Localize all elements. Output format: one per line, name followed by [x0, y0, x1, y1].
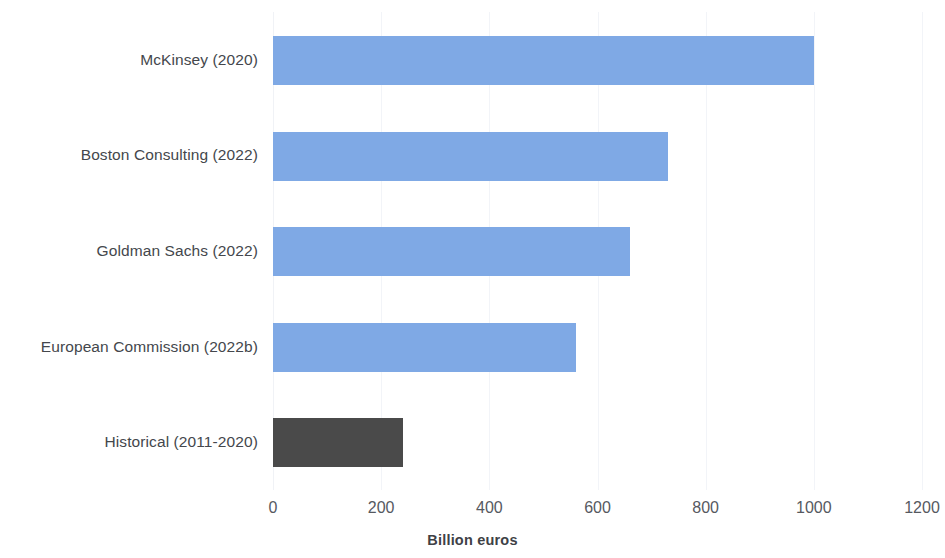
x-tick-label: 800 [692, 497, 719, 519]
bar[interactable] [273, 418, 403, 467]
x-tick-label: 0 [269, 497, 278, 519]
x-tick-label: 200 [368, 497, 395, 519]
x-axis-title: Billion euros [0, 532, 945, 548]
bar-row [273, 108, 922, 204]
gridline-1200 [922, 12, 923, 490]
x-tick-label: 600 [584, 497, 611, 519]
x-tick-label: 400 [476, 497, 503, 519]
category-label: Historical (2011-2020) [0, 433, 258, 451]
bar[interactable] [273, 132, 668, 181]
x-tick-label: 1200 [904, 497, 940, 519]
bar-row [273, 394, 922, 490]
bar[interactable] [273, 227, 630, 276]
bar-row [273, 12, 922, 108]
bars-layer [273, 12, 922, 490]
category-label: European Commission (2022b) [0, 338, 258, 356]
category-label: Boston Consulting (2022) [0, 146, 258, 164]
x-axis-tick-labels: 020040060080010001200 [0, 497, 945, 523]
bar[interactable] [273, 36, 814, 85]
bar-chart: McKinsey (2020)Boston Consulting (2022)G… [0, 0, 945, 558]
category-label: McKinsey (2020) [0, 51, 258, 69]
bar-row [273, 299, 922, 395]
bar[interactable] [273, 323, 576, 372]
bar-row [273, 203, 922, 299]
category-label: Goldman Sachs (2022) [0, 242, 258, 260]
category-axis-labels: McKinsey (2020)Boston Consulting (2022)G… [0, 12, 258, 490]
x-tick-label: 1000 [796, 497, 832, 519]
